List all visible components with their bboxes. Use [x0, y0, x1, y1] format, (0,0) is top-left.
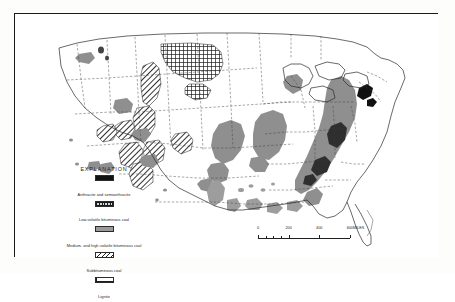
map-frame: EXPLANATION Anthracite and semianthracit…	[14, 13, 438, 257]
legend-entry-lignite: Lignite	[51, 277, 157, 302]
legend-label-subbituminous: Subbituminous coal	[87, 268, 122, 273]
legend-swatch-lignite	[95, 277, 114, 283]
scale-ticks	[258, 232, 366, 240]
scale-tick-400	[319, 235, 320, 239]
scale-tick-0	[258, 235, 259, 239]
legend-entry-medium-high-volatile: Medium- and high-volatile bituminous coa…	[51, 226, 157, 251]
map-scale-bar: 0 200 400 600 MILES	[258, 226, 366, 240]
scale-label-400: 400	[316, 226, 322, 230]
legend-entry-anthracite: Anthracite and semianthracite	[51, 175, 157, 200]
legend-swatch-medium-high-volatile	[95, 226, 114, 232]
legend-swatch-subbituminous	[95, 252, 114, 258]
legend-swatch-anthracite	[95, 175, 114, 181]
legend-label-medium-high-volatile: Medium- and high-volatile bituminous coa…	[67, 243, 142, 248]
legend-title: EXPLANATION	[51, 166, 157, 172]
legend-label-anthracite: Anthracite and semianthracite	[78, 192, 131, 197]
map-legend: EXPLANATION Anthracite and semianthracit…	[51, 166, 157, 244]
legend-entry-low-volatile: Low-volatile bituminous coal	[51, 201, 157, 226]
scale-baseline	[258, 238, 350, 239]
scale-label-200: 200	[285, 226, 291, 230]
scale-units-label: MILES	[353, 226, 364, 230]
scale-label-0: 0	[257, 226, 259, 230]
scale-tick-minor-2	[273, 236, 274, 238]
scale-tick-600	[350, 235, 351, 239]
scale-tick-minor-1	[266, 236, 267, 238]
scale-tick-minor-3	[281, 236, 282, 238]
legend-swatch-low-volatile	[95, 201, 114, 207]
scale-tick-200	[289, 235, 290, 239]
legend-label-lignite: Lignite	[98, 294, 110, 299]
legend-entry-subbituminous: Subbituminous coal	[51, 252, 157, 277]
legend-label-low-volatile: Low-volatile bituminous coal	[79, 217, 129, 222]
